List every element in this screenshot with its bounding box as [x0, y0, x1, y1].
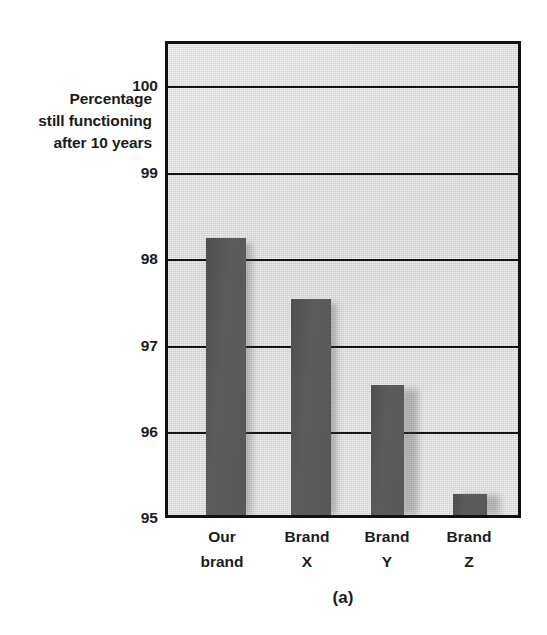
y-tick-label-97: 97: [112, 339, 158, 353]
x-tick-brand-z-line-1: Brand: [421, 524, 517, 549]
y-tick-label-100: 100: [112, 79, 158, 93]
y-axis-tick-labels: 100 99 98 97 96 95: [104, 41, 158, 518]
x-tick-label-our-brand: Our brand: [174, 524, 270, 574]
gridline-99: [168, 173, 518, 175]
plot-area: [165, 41, 521, 518]
bar-brand-y[interactable]: [371, 385, 404, 515]
bar-chart-figure: Percentage still functioning after 10 ye…: [0, 0, 547, 635]
figure-caption: (a): [165, 588, 521, 608]
y-tick-label-96: 96: [112, 425, 158, 439]
y-tick-label-95: 95: [112, 511, 158, 525]
bar-brand-x[interactable]: [291, 299, 331, 515]
x-axis-tick-labels: Our brand Brand X Brand Y Brand Z: [165, 524, 521, 580]
x-tick-our-brand-line-1: Our: [174, 524, 270, 549]
x-tick-our-brand-line-2: brand: [174, 549, 270, 574]
bar-brand-z[interactable]: [453, 494, 487, 515]
plot-surface: [168, 44, 518, 515]
x-tick-label-brand-z: Brand Z: [421, 524, 517, 574]
y-tick-label-99: 99: [112, 166, 158, 180]
bar-our-brand[interactable]: [206, 238, 246, 515]
y-tick-label-98: 98: [112, 252, 158, 266]
gridline-100: [168, 86, 518, 88]
x-tick-brand-z-line-2: Z: [421, 549, 517, 574]
